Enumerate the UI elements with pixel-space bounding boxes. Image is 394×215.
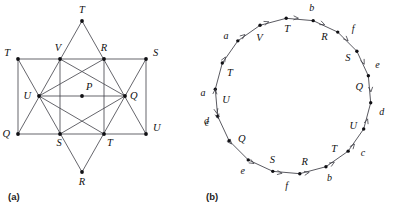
cycle-vertex-dot <box>346 149 349 152</box>
vertex-label-s: S <box>153 47 159 58</box>
cycle-vertex-dot <box>258 24 261 27</box>
cycle-vertex-dot <box>285 17 288 20</box>
graph-edge <box>60 96 125 134</box>
cycle-vertex-dot <box>311 19 314 22</box>
cycle-vertex-label-t: T <box>331 143 338 154</box>
vertex-label-v: V <box>55 42 63 53</box>
cycle-vertex-label-r: R <box>320 31 328 42</box>
vertex-label-s: S <box>56 137 62 148</box>
graph-vertex-dot <box>102 132 106 136</box>
cycle-vertex-dot <box>367 74 370 77</box>
vertex-label-u: U <box>23 90 32 101</box>
caption-b: (b) <box>206 191 218 202</box>
cycle-vertex-dot <box>324 165 327 168</box>
cycle-vertex-label-v: V <box>256 32 264 43</box>
vertex-label-t: T <box>79 4 86 15</box>
cycle-vertex-label-t: T <box>227 67 234 78</box>
cycle-vertex-dot <box>236 39 239 42</box>
cycle-edge-label-f-8: f <box>285 180 289 191</box>
cycle-edge-label-a-0: a <box>201 87 206 98</box>
graph-edge <box>18 21 82 134</box>
cycle-edge-label-b-2: b <box>309 2 314 13</box>
cycle-edge-label-d-5: d <box>379 106 385 117</box>
figure-root: TTVRSUPQQSTUR TVTRSQUTRSQUaabfedcbfedc (… <box>0 0 394 215</box>
panel-star-graph: TTVRSUPQQSTUR <box>0 0 197 215</box>
cycle-vertex-dot <box>362 127 365 130</box>
graph-vertex-dot <box>102 57 106 61</box>
cycle-vertex-label-u: U <box>349 120 358 131</box>
graph-vertex-dot <box>144 132 148 136</box>
cycle-vertex-dot <box>247 158 250 161</box>
cycle-vertex-label-u: U <box>222 94 231 105</box>
cycle-vertex-dot <box>298 172 301 175</box>
cycle-vertex-dot <box>355 50 358 53</box>
cycle-edge-label-a-1: a <box>224 30 229 41</box>
vertex-label-p: P <box>85 81 93 92</box>
graph-vertex-dot <box>16 57 20 61</box>
cycle-vertex-label-t: T <box>284 23 291 34</box>
graph-vertex-dot <box>80 170 84 174</box>
graph-edge <box>82 21 146 134</box>
graph-edge <box>60 59 125 96</box>
cycle-vertex-dot <box>369 101 372 104</box>
vertex-label-u: U <box>153 122 162 133</box>
cycle-edge-label-c-11: c <box>205 117 210 128</box>
graph-vertex-dot <box>58 132 62 136</box>
cycle-vertex-label-s: S <box>270 154 276 165</box>
vertex-label-r: R <box>100 42 108 53</box>
caption-a: (a) <box>8 191 20 202</box>
vertex-label-t: T <box>4 47 11 58</box>
cycle-vertex-dot <box>221 61 224 64</box>
graph-edge <box>39 96 104 134</box>
graph-edge <box>39 59 104 96</box>
vertex-label-r: R <box>78 176 86 187</box>
cycle-vertex-label-q: Q <box>238 133 246 144</box>
graph-vertex-dot <box>16 132 20 136</box>
vertex-label-t: T <box>107 137 114 148</box>
cycle-edge-label-e-4: e <box>375 59 380 70</box>
cycle-edge-label-b-7: b <box>327 172 332 183</box>
graph-vertex-dot <box>144 57 148 61</box>
graph-vertex-dot <box>37 94 41 98</box>
graph-vertex-dot <box>80 94 84 98</box>
vertex-label-q: Q <box>2 128 10 139</box>
cycle-vertex-dot <box>336 30 339 33</box>
vertex-label-q: Q <box>130 90 138 101</box>
star-graph-svg: TTVRSUPQQSTUR <box>0 0 197 215</box>
cycle-edge-label-f-3: f <box>352 23 356 34</box>
cycle-arrowhead <box>277 171 282 175</box>
graph-vertex-dot <box>80 19 84 23</box>
cycle-graph-svg: TVTRSQUTRSQUaabfedcbfedc <box>197 0 394 215</box>
panel-cycle-graph: TVTRSQUTRSQUaabfedcbfedc <box>197 0 394 215</box>
graph-vertex-dot <box>123 94 127 98</box>
cycle-vertex-label-s: S <box>345 52 351 63</box>
cycle-vertex-label-q: Q <box>356 81 364 92</box>
cycle-vertex-dot <box>271 170 274 173</box>
cycle-edge-label-c-6: c <box>361 147 366 158</box>
cycle-edge-label-e-9: e <box>240 165 245 176</box>
cycle-vertex-label-r: R <box>300 156 308 167</box>
graph-vertex-dot <box>58 57 62 61</box>
